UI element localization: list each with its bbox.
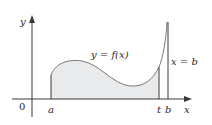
tick-label-b: b xyxy=(165,104,171,115)
tick-label-a: a xyxy=(48,104,54,115)
diagram-canvas: y 0 a t b x y = f(x) x = b xyxy=(0,0,212,125)
origin-label: 0 xyxy=(19,101,25,112)
curve-label: y = f(x) xyxy=(90,49,129,60)
y-axis-arrow-icon xyxy=(29,15,35,23)
x-axis-arrow-icon xyxy=(184,96,192,102)
shaded-area xyxy=(51,60,159,99)
asymptote-label: x = b xyxy=(171,56,198,67)
x-axis-label: x xyxy=(184,104,190,115)
y-axis-label: y xyxy=(19,16,26,27)
tick-label-t: t xyxy=(157,104,162,115)
